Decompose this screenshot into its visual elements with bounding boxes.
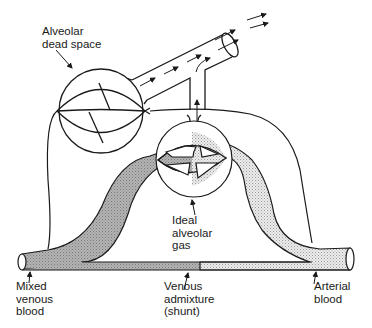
label-line: gas xyxy=(172,239,212,252)
label-line: Alveolar xyxy=(42,25,101,38)
label-venous-admixture: Venous admixture (shunt) xyxy=(164,280,215,318)
label-line: admixture xyxy=(164,293,215,306)
label-ideal-alveolar-gas: Ideal alveolar gas xyxy=(172,214,212,252)
label-line: alveolar xyxy=(172,227,212,240)
label-mixed-venous-blood: Mixed venous blood xyxy=(16,280,53,318)
label-line: Arterial xyxy=(314,280,350,293)
label-line: Venous xyxy=(164,280,215,293)
label-arterial-blood: Arterial blood xyxy=(314,280,350,305)
label-line: blood xyxy=(314,293,350,306)
airflow-arrows xyxy=(140,14,268,124)
label-line: (shunt) xyxy=(164,305,215,318)
label-line: dead space xyxy=(42,38,101,51)
label-line: Ideal xyxy=(172,214,212,227)
label-line: blood xyxy=(16,305,53,318)
label-line: Mixed xyxy=(16,280,53,293)
label-line: venous xyxy=(16,293,53,306)
ideal-alveolus xyxy=(156,115,232,197)
dead-space-alveolus xyxy=(57,69,150,153)
label-dead-space: Alveolar dead space xyxy=(42,25,101,50)
